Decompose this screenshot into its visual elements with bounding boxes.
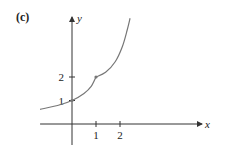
- curve-right-branch: [96, 18, 130, 77]
- y-axis-label: y: [76, 12, 82, 24]
- curve-left-branch: [40, 77, 96, 109]
- marked-point: [94, 75, 97, 78]
- y-tick-label: 2: [59, 71, 65, 83]
- x-tick-label: 2: [117, 129, 123, 141]
- panel-label: (c): [16, 10, 29, 24]
- x-tick-label: 1: [93, 129, 99, 141]
- marked-point: [70, 99, 73, 102]
- chart: (c) x y 1212: [0, 0, 231, 151]
- x-axis-label: x: [204, 118, 210, 130]
